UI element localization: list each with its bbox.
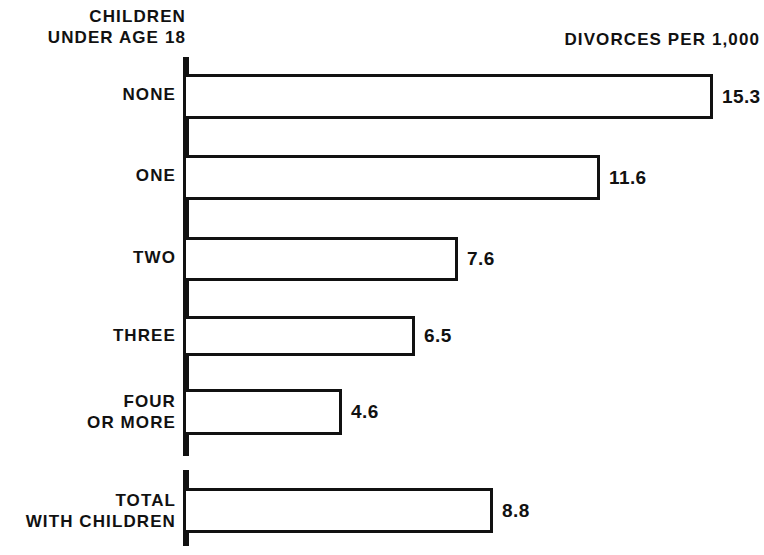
bar-rect[interactable] xyxy=(186,237,458,281)
bar-category-label: TWO xyxy=(0,247,176,268)
bar-value-label: 6.5 xyxy=(424,325,452,347)
chart-row-header-title: CHILDREN UNDER AGE 18 xyxy=(0,6,186,48)
chart-row-header-line1: CHILDREN xyxy=(0,6,186,27)
bar-category-label-line2: OR MORE xyxy=(0,412,176,433)
bar-value-label: 11.6 xyxy=(609,167,647,189)
bar-row[interactable]: 6.5 xyxy=(186,316,415,356)
bar-category-label-line1: TWO xyxy=(0,247,176,268)
bar-category-label: ONE xyxy=(0,165,176,186)
bar-category-label-line1: FOUR xyxy=(0,391,176,412)
bar-row[interactable]: 15.3 xyxy=(186,74,713,119)
bar-row[interactable]: 7.6 xyxy=(186,237,458,281)
bar-category-label: TOTALWITH CHILDREN xyxy=(0,490,176,532)
bar-value-label: 15.3 xyxy=(722,86,761,108)
bar-category-label: THREE xyxy=(0,325,176,346)
bar-category-label-line1: NONE xyxy=(0,84,176,105)
bar-chart: CHILDREN UNDER AGE 18 DIVORCES PER 1,000… xyxy=(0,0,764,555)
bar-value-label: 4.6 xyxy=(351,401,379,423)
bar-category-label-line1: THREE xyxy=(0,325,176,346)
bar-category-label-line2: WITH CHILDREN xyxy=(0,511,176,532)
bar-row[interactable]: 11.6 xyxy=(186,155,600,200)
bar-category-label-line1: TOTAL xyxy=(0,490,176,511)
bar-row[interactable]: 4.6 xyxy=(186,389,342,435)
bar-rect[interactable] xyxy=(186,389,342,435)
bar-rect[interactable] xyxy=(186,74,713,119)
bar-rect[interactable] xyxy=(186,155,600,200)
bar-rect[interactable] xyxy=(186,316,415,356)
chart-row-header-line2: UNDER AGE 18 xyxy=(0,27,186,48)
bar-value-label: 7.6 xyxy=(467,248,495,270)
bar-category-label: FOUROR MORE xyxy=(0,391,176,433)
bar-value-label: 8.8 xyxy=(502,500,530,522)
bar-row[interactable]: 8.8 xyxy=(186,488,493,533)
bar-category-label: NONE xyxy=(0,84,176,105)
bar-rect[interactable] xyxy=(186,488,493,533)
bar-category-label-line1: ONE xyxy=(0,165,176,186)
chart-value-axis-title: DIVORCES PER 1,000 xyxy=(564,30,760,50)
